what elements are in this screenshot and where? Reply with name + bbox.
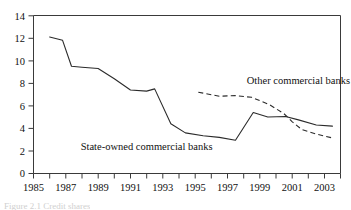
y-tick-label: 8 [20, 78, 25, 89]
x-tick-label: 1999 [249, 182, 270, 193]
x-tick-label: 2003 [314, 182, 335, 193]
x-tick-label: 1989 [88, 182, 109, 193]
y-tick-label: 14 [15, 11, 26, 22]
series-line-other-banks [198, 92, 332, 138]
y-tick-label: 0 [20, 168, 25, 179]
annotation-other-commercial-banks: Other commercial banks [247, 75, 350, 86]
x-tick-label: 1993 [152, 182, 173, 193]
credit-share-line-chart: 0 2 4 6 8 10 12 14 [0, 0, 351, 210]
y-tick-label: 6 [20, 101, 25, 112]
x-axis-tick-labels: 1985 1987 1989 1991 1993 1995 1997 1999 … [23, 182, 335, 193]
x-tick-label: 1985 [23, 182, 44, 193]
y-tick-label: 4 [20, 123, 26, 134]
x-axis-ticks [34, 174, 341, 179]
figure-caption: Figure 2.1 Credit shares [4, 201, 90, 210]
x-tick-label: 1995 [185, 182, 206, 193]
annotation-state-owned-commercial-banks: State-owned commercial banks [81, 141, 213, 152]
y-tick-label: 2 [20, 146, 25, 157]
y-axis-ticks [29, 16, 34, 174]
x-tick-label: 1991 [120, 182, 141, 193]
y-tick-label: 10 [15, 56, 26, 67]
y-axis-tick-labels: 0 2 4 6 8 10 12 14 [15, 11, 26, 180]
x-tick-label: 1997 [217, 182, 238, 193]
series-line-state-owned [50, 37, 333, 140]
figure-container: 0 2 4 6 8 10 12 14 [0, 0, 351, 210]
y-tick-label: 12 [15, 33, 26, 44]
x-tick-label: 2001 [282, 182, 303, 193]
x-tick-label: 1987 [55, 182, 76, 193]
